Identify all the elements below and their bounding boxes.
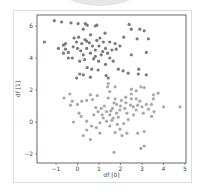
data-point — [117, 68, 120, 71]
data-point — [135, 89, 138, 92]
data-point — [110, 48, 113, 51]
data-point — [105, 74, 108, 77]
data-point — [114, 131, 117, 134]
data-point — [143, 130, 146, 133]
data-point — [139, 85, 142, 88]
data-point — [105, 110, 108, 113]
data-point — [115, 112, 118, 115]
data-point — [88, 41, 91, 44]
data-point — [82, 134, 85, 137]
data-point — [75, 76, 78, 79]
data-point — [102, 40, 105, 43]
data-point — [129, 104, 132, 107]
data-point — [108, 124, 111, 127]
data-point — [117, 116, 120, 119]
y-tick-label: 6 — [29, 22, 33, 29]
data-point — [125, 112, 128, 115]
data-point — [120, 134, 123, 137]
data-point — [94, 106, 97, 109]
data-point — [147, 108, 150, 111]
data-point — [150, 115, 153, 118]
y-axis-ticks: 6420−2 — [24, 22, 37, 157]
data-point — [82, 73, 85, 76]
plot-area — [37, 15, 186, 163]
data-point — [118, 128, 121, 131]
data-point — [95, 39, 98, 42]
data-point — [138, 100, 141, 103]
scatter-chart: −1012345 6420−2 df [0] df [1] — [0, 0, 201, 195]
data-point — [143, 144, 146, 147]
x-axis-label: df [0] — [103, 171, 119, 178]
data-point — [94, 48, 97, 51]
data-point — [103, 32, 106, 35]
data-point — [62, 44, 65, 47]
data-point — [147, 37, 150, 40]
data-point — [86, 24, 89, 27]
data-point — [135, 97, 138, 100]
y-tick-label: 0 — [29, 118, 33, 125]
x-tick-label: −1 — [52, 165, 61, 172]
data-point — [67, 56, 70, 59]
data-point — [76, 47, 79, 50]
x-tick-label: 4 — [162, 165, 166, 172]
data-point — [89, 138, 92, 141]
data-point — [130, 53, 133, 56]
data-point — [76, 103, 79, 106]
data-point — [103, 104, 106, 107]
data-point — [130, 28, 133, 31]
y-tick-label: 2 — [29, 86, 33, 93]
data-point — [80, 115, 83, 118]
data-point — [152, 110, 155, 113]
data-point — [112, 151, 115, 154]
data-point — [57, 47, 60, 50]
data-point — [85, 120, 88, 123]
data-point — [83, 38, 86, 41]
data-point — [85, 128, 88, 131]
x-tick-label: 1 — [97, 165, 101, 172]
data-point — [130, 97, 133, 100]
data-point — [100, 53, 103, 56]
data-point — [107, 76, 110, 79]
data-point — [80, 100, 83, 103]
data-point — [112, 101, 115, 104]
data-point — [145, 51, 148, 54]
data-point — [110, 119, 113, 122]
data-point — [90, 124, 93, 127]
data-point — [130, 92, 133, 95]
data-point — [95, 24, 98, 27]
data-point — [98, 132, 101, 135]
data-point — [60, 20, 63, 23]
data-point — [150, 103, 153, 106]
data-point — [98, 121, 101, 124]
data-point — [120, 99, 123, 102]
data-point — [115, 48, 118, 51]
data-point — [145, 73, 148, 76]
data-point — [123, 107, 126, 110]
data-point — [100, 107, 103, 110]
data-point — [91, 44, 94, 47]
data-point — [132, 113, 135, 116]
data-point — [75, 40, 78, 43]
data-point — [152, 97, 155, 100]
data-point — [125, 132, 128, 135]
data-point — [85, 99, 88, 102]
data-point — [127, 72, 130, 75]
data-point — [89, 76, 92, 79]
data-point — [62, 96, 65, 99]
data-point — [82, 53, 85, 56]
data-point — [108, 90, 111, 93]
data-point — [104, 63, 107, 66]
data-point — [43, 40, 46, 43]
data-point — [122, 122, 125, 125]
data-point — [137, 68, 140, 71]
data-point — [136, 132, 139, 135]
data-point — [122, 36, 125, 39]
data-point — [90, 68, 93, 71]
data-point — [136, 37, 139, 40]
data-point — [78, 72, 81, 75]
data-point — [122, 69, 125, 72]
data-point — [85, 47, 88, 50]
data-point — [130, 88, 133, 91]
data-point — [136, 104, 139, 107]
data-point — [64, 48, 67, 51]
